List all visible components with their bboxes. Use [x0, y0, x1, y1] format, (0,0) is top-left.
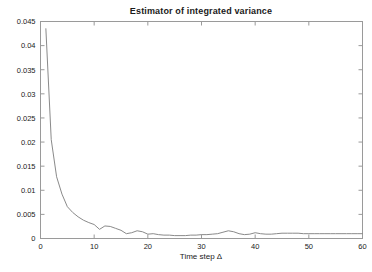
x-tick-label: 50 — [305, 242, 313, 251]
y-tick-label: 0.04 — [21, 41, 36, 50]
x-tick-label: 40 — [251, 242, 259, 251]
data-series-lines — [46, 29, 363, 236]
y-tick-label: 0.01 — [21, 186, 36, 195]
y-tick-label: 0.025 — [17, 114, 36, 123]
x-tick-label: 60 — [358, 242, 366, 251]
x-tick-label: 10 — [90, 242, 98, 251]
plot-area: 00.0050.010.0150.020.0250.030.0350.040.0… — [0, 0, 372, 272]
y-tick-label: 0.035 — [17, 66, 36, 75]
x-tick-label: 0 — [38, 242, 42, 251]
x-tick-label: 20 — [144, 242, 152, 251]
y-tick-label: 0.015 — [17, 162, 36, 171]
y-tick-label: 0.005 — [17, 210, 36, 219]
y-tick-label: 0.02 — [21, 138, 36, 147]
y-axis-ticks: 00.0050.010.0150.020.0250.030.0350.040.0… — [17, 17, 363, 243]
axes-frame — [41, 22, 363, 239]
series-line — [46, 29, 363, 236]
y-tick-label: 0.03 — [21, 90, 36, 99]
x-axis-ticks: 0102030405060 — [38, 22, 366, 251]
x-axis-label: Time step Δ — [40, 252, 362, 261]
x-tick-label: 30 — [197, 242, 205, 251]
y-tick-label: 0.045 — [17, 17, 36, 26]
figure-canvas: Estimator of integrated variance 00.0050… — [0, 0, 372, 272]
y-tick-label: 0 — [31, 234, 35, 243]
